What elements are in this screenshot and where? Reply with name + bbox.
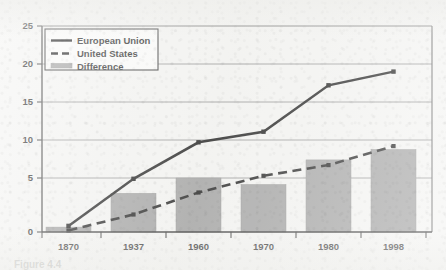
figure-caption: Figure 4.4 bbox=[14, 259, 62, 270]
figure-page: 25 20 15 10 5 0 bbox=[0, 0, 446, 270]
y-tick-labels: 25 20 15 10 5 0 bbox=[22, 20, 33, 237]
x-tick-label-1870: 1870 bbox=[58, 241, 79, 252]
y-axis bbox=[37, 26, 42, 232]
chart-svg: 25 20 15 10 5 0 bbox=[0, 0, 446, 270]
marker-eu-1937 bbox=[131, 177, 135, 181]
marker-eu-1970 bbox=[261, 130, 265, 134]
legend-swatch-gray-bar bbox=[51, 63, 72, 68]
marker-us-1998 bbox=[391, 144, 395, 148]
x-tick-label-1980: 1980 bbox=[318, 241, 339, 252]
legend-label-difference: Difference bbox=[77, 61, 123, 72]
bar-difference-1960 bbox=[176, 178, 221, 232]
combo-chart: 25 20 15 10 5 0 bbox=[0, 0, 446, 270]
x-tick-label-1970: 1970 bbox=[253, 241, 274, 252]
legend-label-united-states: United States bbox=[77, 48, 138, 59]
y-tick-label: 25 bbox=[22, 20, 33, 31]
marker-us-1937 bbox=[131, 212, 135, 216]
chart-legend: European Union United States Difference bbox=[45, 29, 158, 72]
legend-label-european-union: European Union bbox=[77, 35, 151, 46]
marker-eu-1998 bbox=[391, 69, 395, 73]
bar-difference-1980 bbox=[306, 160, 351, 232]
x-tick-label-1960: 1960 bbox=[188, 241, 209, 252]
marker-us-1980 bbox=[326, 163, 330, 167]
marker-us-1960 bbox=[196, 190, 200, 194]
difference-bars bbox=[46, 150, 416, 233]
bar-difference-1970 bbox=[241, 185, 286, 233]
marker-us-1970 bbox=[261, 174, 265, 178]
marker-eu-1960 bbox=[196, 140, 200, 144]
y-tick-label: 0 bbox=[28, 226, 33, 237]
y-tick-label: 5 bbox=[28, 172, 34, 183]
x-axis bbox=[42, 232, 432, 238]
x-tick-labels: 1870 1937 1960 1970 1980 1998 bbox=[58, 241, 404, 252]
bar-difference-1998 bbox=[371, 150, 416, 233]
marker-eu-1870 bbox=[66, 224, 70, 228]
y-tick-label: 15 bbox=[22, 96, 33, 107]
marker-eu-1980 bbox=[326, 83, 330, 87]
x-tick-label-1998: 1998 bbox=[383, 241, 404, 252]
caption-label: Figure 4.4 bbox=[14, 259, 62, 270]
y-tick-label: 10 bbox=[22, 134, 33, 145]
x-tick-label-1937: 1937 bbox=[123, 241, 144, 252]
y-tick-label: 20 bbox=[22, 58, 33, 69]
